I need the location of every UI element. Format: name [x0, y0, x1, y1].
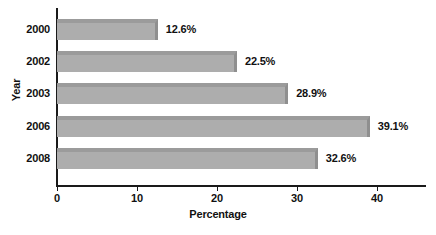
x-axis-line: [56, 185, 426, 187]
x-axis-tick-label: 10: [117, 192, 157, 204]
y-axis-category-label: 2008: [0, 152, 50, 164]
y-axis-category-label: 2000: [0, 23, 50, 35]
bar: [57, 83, 288, 104]
y-axis-category-label: 2006: [0, 120, 50, 132]
bar-chart: Year Percentage 010203040200012.6%200222…: [0, 0, 436, 235]
bar: [57, 51, 237, 72]
bar: [57, 148, 318, 169]
bar-value-label: 12.6%: [166, 23, 196, 35]
x-axis-tick: [217, 185, 218, 191]
bar-value-label: 22.5%: [245, 55, 275, 67]
x-axis-title: Percentage: [57, 208, 379, 220]
bar: [57, 19, 158, 40]
x-axis-tick-label: 30: [277, 192, 317, 204]
y-axis-category-label: 2002: [0, 55, 50, 67]
x-axis-tick-label: 0: [37, 192, 77, 204]
x-axis-tick-label: 20: [197, 192, 237, 204]
bar-value-label: 39.1%: [378, 120, 408, 132]
bar: [57, 116, 370, 137]
x-axis-tick-label: 40: [357, 192, 397, 204]
bar-value-label: 32.6%: [326, 152, 356, 164]
x-axis-tick: [137, 185, 138, 191]
x-axis-tick: [57, 185, 58, 191]
bar-value-label: 28.9%: [296, 87, 326, 99]
x-axis-tick: [297, 185, 298, 191]
y-axis-category-label: 2003: [0, 87, 50, 99]
x-axis-tick: [377, 185, 378, 191]
